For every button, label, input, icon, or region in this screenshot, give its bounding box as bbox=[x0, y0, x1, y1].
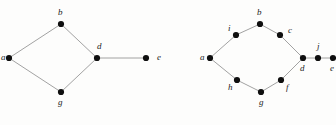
graph-vertex-label-b: b bbox=[58, 8, 63, 17]
graph-vertex-label-h: h bbox=[228, 83, 233, 92]
graph-edge-b-c bbox=[260, 24, 280, 35]
graph-edge-g-d bbox=[61, 58, 97, 92]
graph-edge-c-d bbox=[280, 35, 303, 58]
graph-vertex-g bbox=[258, 89, 264, 95]
graph-vertex-d bbox=[94, 55, 100, 61]
graph-vertex-label-d: d bbox=[97, 42, 102, 51]
graph-vertex-e bbox=[330, 55, 336, 61]
graph-vertex-e bbox=[143, 55, 149, 61]
graph-edge-h-g bbox=[237, 80, 261, 92]
graph-vertex-h bbox=[234, 77, 240, 83]
graph-vertex-d bbox=[300, 55, 306, 61]
graph-edge-i-b bbox=[236, 24, 260, 35]
graph-vertex-b bbox=[257, 21, 263, 27]
graph-edge-g-f bbox=[261, 80, 281, 92]
graph-vertex-label-g: g bbox=[259, 98, 264, 107]
graph-edges-layer bbox=[0, 0, 336, 125]
graph-vertex-g bbox=[58, 89, 64, 95]
graph-vertex-label-g: g bbox=[58, 98, 63, 107]
graph-vertex-i bbox=[233, 32, 239, 38]
graph-edge-b-d bbox=[61, 24, 97, 58]
graph-vertex-label-a: a bbox=[1, 53, 6, 62]
right-graph-vertices bbox=[207, 21, 336, 95]
graph-vertex-c bbox=[277, 32, 283, 38]
graph-vertex-label-j: j bbox=[317, 42, 320, 51]
graph-vertex-label-f: f bbox=[286, 83, 289, 92]
graph-vertex-label-i: i bbox=[228, 24, 231, 33]
graph-edge-a-h bbox=[210, 58, 237, 80]
graph-vertex-label-e: e bbox=[157, 53, 161, 62]
graph-edge-a-b bbox=[9, 24, 61, 58]
graph-vertex-b bbox=[58, 21, 64, 27]
graph-edge-a-g bbox=[9, 58, 61, 92]
graph-vertex-label-d: d bbox=[300, 64, 305, 73]
graph-vertex-label-e: e bbox=[330, 64, 334, 73]
graph-vertex-label-b: b bbox=[257, 8, 262, 17]
graph-vertex-j bbox=[315, 55, 321, 61]
graph-vertex-f bbox=[278, 77, 284, 83]
graph-vertex-label-c: c bbox=[288, 26, 292, 35]
graph-vertex-a bbox=[6, 55, 12, 61]
graph-figure: abdegaibcdjefgh bbox=[0, 0, 336, 125]
graph-vertex-label-a: a bbox=[200, 53, 205, 62]
left-graph-edges bbox=[9, 24, 146, 92]
graph-vertex-a bbox=[207, 55, 213, 61]
graph-edge-a-i bbox=[210, 35, 236, 58]
